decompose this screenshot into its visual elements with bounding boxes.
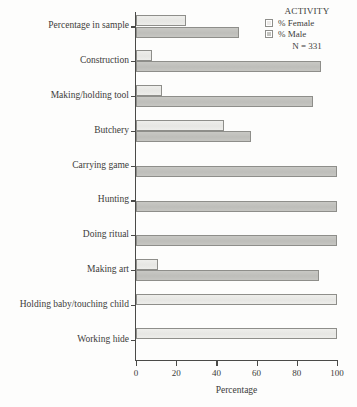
x-axis-tick-label: 40 (212, 368, 221, 378)
category-label: Butchery (0, 125, 129, 135)
x-axis-tick (136, 361, 137, 366)
legend: ACTIVITY % Female % Male N = 331 (255, 6, 355, 51)
bar-male[interactable] (136, 61, 321, 72)
legend-sample-size: N = 331 (255, 41, 355, 51)
x-axis-tick (176, 361, 177, 366)
x-axis-tick-label: 100 (330, 368, 344, 378)
x-axis-tick-label: 60 (252, 368, 261, 378)
x-axis-tick (216, 361, 217, 366)
x-axis-tick (257, 361, 258, 366)
x-axis-tick-label: 80 (292, 368, 301, 378)
category-label: Working hide (0, 334, 129, 344)
y-axis-tick (131, 340, 136, 341)
bar-female[interactable] (136, 294, 337, 305)
bar-female[interactable] (136, 120, 224, 131)
category-label: Hunting (0, 194, 129, 204)
bar-female[interactable] (136, 328, 337, 339)
bar-female[interactable] (136, 85, 162, 96)
category-label: Carrying game (0, 160, 129, 170)
legend-label-female: % Female (278, 18, 314, 28)
x-axis-tick (297, 361, 298, 366)
bar-male[interactable] (136, 166, 337, 177)
category-label: Doing ritual (0, 229, 129, 239)
legend-swatch-male-icon (265, 30, 273, 38)
legend-title: ACTIVITY (255, 6, 355, 16)
category-label: Percentage in sample (0, 20, 129, 30)
bar-female[interactable] (136, 259, 158, 270)
category-label: Construction (0, 55, 129, 65)
category-label: Making/holding tool (0, 90, 129, 100)
bar-male[interactable] (136, 96, 313, 107)
category-label: Holding baby/touching child (0, 299, 129, 309)
y-axis-tick (131, 305, 136, 306)
bar-male[interactable] (136, 131, 251, 142)
bar-female[interactable] (136, 15, 186, 26)
legend-label-male: % Male (278, 29, 306, 39)
bar-male[interactable] (136, 27, 239, 38)
x-axis-line (135, 360, 338, 361)
bar-male[interactable] (136, 201, 337, 212)
bar-female[interactable] (136, 50, 152, 61)
x-axis-tick-label: 0 (134, 368, 139, 378)
bar-chart-figure: Percentage in sampleConstructionMaking/h… (0, 0, 357, 407)
legend-item-female[interactable]: % Female (265, 18, 355, 28)
bar-male[interactable] (136, 235, 337, 246)
legend-swatch-female-icon (265, 19, 273, 27)
x-axis-tick (337, 361, 338, 366)
category-label: Making art (0, 264, 129, 274)
legend-item-male[interactable]: % Male (265, 29, 355, 39)
x-axis-title: Percentage (136, 385, 337, 395)
x-axis-tick-label: 20 (172, 368, 181, 378)
bar-male[interactable] (136, 270, 319, 281)
